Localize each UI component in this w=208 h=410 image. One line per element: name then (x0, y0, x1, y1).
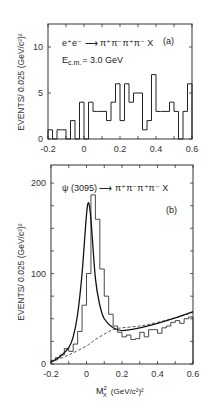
y-tick-label: 200 (31, 178, 46, 188)
x-tick-label: 0.4 (151, 369, 164, 379)
x-tick-label: -0.2 (43, 369, 59, 379)
panel-a-reaction-label: e⁺e⁻ ⟶ π⁺π⁻π⁺π⁻ X (62, 38, 153, 48)
x-tick-label: 0.6 (186, 144, 199, 154)
x-tick-label: -0.2 (40, 144, 56, 154)
panel-a-energy-label: Ec.m.= 3.0 GeV (62, 55, 123, 66)
panel-a: -0.200.20.40.60510 e⁺e⁻ ⟶ π⁺π⁻π⁺π⁻ X (a)… (16, 24, 198, 154)
panel-b-fit-curve (51, 203, 193, 362)
panel-a-y-axis-label: EVENTS/ 0.025 (GeV/c²)² (16, 33, 26, 130)
y-tick-label: 100 (31, 269, 46, 279)
x-tick-label: 0 (84, 369, 89, 379)
x-tick-label: 0.2 (114, 144, 127, 154)
panel-a-histogram (48, 75, 192, 139)
x-tick-label: 0.4 (150, 144, 163, 154)
panel-b-tag: (b) (166, 205, 177, 215)
y-tick-label: 0 (41, 359, 46, 369)
x-tick-label: 0.6 (187, 369, 200, 379)
y-tick-label: 0 (38, 134, 43, 144)
panel-b-ticks: -0.200.20.40.60100200 (31, 165, 199, 379)
panel-b-y-axis-label: EVENTS/ 0.025 (GeV/c²)² (16, 223, 26, 320)
x-tick-label: 0.2 (116, 369, 129, 379)
y-tick-label: 10 (33, 42, 43, 52)
panel-b: -0.200.20.40.60100200 ψ (3095) ⟶ π⁺π⁻π⁺π… (16, 165, 199, 398)
panel-b-reaction-label: ψ (3095) ⟶ π⁺π⁻π⁺π⁻ X (62, 183, 168, 193)
x-tick-label: 0 (81, 144, 86, 154)
panel-b-x-axis-label: M2X(GeV/c²)² (96, 385, 144, 398)
figure: -0.200.20.40.60510 e⁺e⁻ ⟶ π⁺π⁻π⁺π⁻ X (a)… (0, 0, 208, 410)
panel-a-tag: (a) (163, 36, 174, 46)
y-tick-label: 5 (38, 88, 43, 98)
panel-b-background-curve (51, 312, 193, 362)
